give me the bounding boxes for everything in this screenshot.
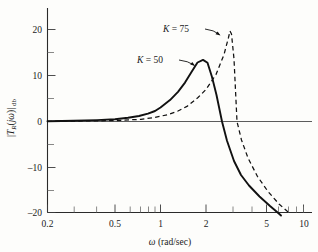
curve-k75-dashed [48,31,290,213]
svg-text:|TR(jω)| db: |TR(jω)| db [6,99,18,137]
annotation-k75: K = 75 [162,24,221,36]
annotation-k50: K = 50 [136,55,195,66]
curve-k50-solid [48,60,282,216]
y-tick-label-neg10: –10 [27,163,43,173]
bode-magnitude-figure: 20 10 0 –10 –20 0.2 0.5 1 2 5 10 ω (rad/… [0,0,318,252]
annotation-k50-label: K = 50 [136,55,163,65]
x-tick-labels: 0.2 0.5 1 2 5 10 [42,219,309,229]
annotation-k75-label: K = 75 [162,24,189,34]
x-tick-label-0.5: 0.5 [109,219,121,229]
x-axis-ticks [48,205,304,213]
x-tick-label-2: 2 [204,219,209,229]
x-tick-label-1: 1 [158,219,163,229]
x-axis-title: ω (rad/sec) [149,237,191,248]
y-tick-label-10: 10 [33,71,43,81]
y-axis-title: |TR(jω)| db [6,99,18,137]
plot-canvas: 20 10 0 –10 –20 0.2 0.5 1 2 5 10 ω (rad/… [0,0,318,252]
y-tick-label-neg20: –20 [27,208,43,218]
x-tick-label-10: 10 [299,219,309,229]
y-tick-label-20: 20 [33,25,43,35]
y-tick-label-0: 0 [37,117,42,127]
y-tick-labels: 20 10 0 –10 –20 [27,25,43,218]
x-tick-label-0.2: 0.2 [42,219,54,229]
annotation-k50-arrowhead [190,62,195,66]
x-tick-label-5: 5 [264,219,269,229]
